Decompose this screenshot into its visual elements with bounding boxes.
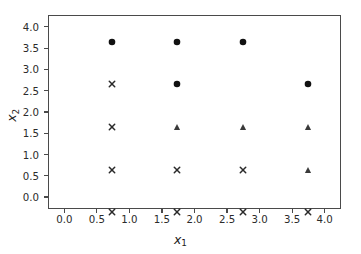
y-axis-tick [44,111,48,112]
y-axis-label-subscript: 2 [11,108,21,114]
x-axis-tick [194,209,195,213]
x-axis-tick [64,209,65,213]
x-axis-tick-label: 3.0 [252,214,268,225]
y-axis-tick [44,175,48,176]
data-point-x [304,209,311,216]
x-axis-tick [129,209,130,213]
y-axis-tick-label: 0.5 [23,170,39,181]
y-axis-tick-label: 1.5 [23,128,39,139]
x-axis-tick-label: 1.5 [154,214,170,225]
y-axis-tick-label: 3.0 [23,64,39,75]
x-axis-label-subscript: 1 [181,238,187,248]
y-axis-tick-label: 4.0 [23,21,39,32]
x-axis-tick [161,209,162,213]
y-axis-tick [44,90,48,91]
y-axis-tick [44,48,48,49]
data-point-x [109,209,116,216]
x-axis-tick-label: 1.0 [121,214,137,225]
data-point-x [239,209,246,216]
x-axis-tick [96,209,97,213]
y-axis-tick [44,154,48,155]
y-axis-tick-label: 2.5 [23,85,39,96]
x-axis-tick-label: 0.0 [56,214,72,225]
y-axis-label-var: x [5,114,20,121]
y-axis-tick-label: 1.0 [23,149,39,160]
x-axis-tick [259,209,260,213]
x-axis-tick [324,209,325,213]
scatter-plot-figure: x1 x2 0.00.51.01.52.02.53.03.54.00.00.51… [0,0,361,254]
x-axis-label: x1 [0,232,361,248]
y-axis-tick-label: 2.0 [23,107,39,118]
y-axis-tick [44,196,48,197]
y-axis-tick [44,69,48,70]
data-point-x [174,209,181,216]
y-axis-label: x2 [2,95,24,135]
y-axis-tick-label: 3.5 [23,43,39,54]
x-axis-tick-label: 2.5 [219,214,235,225]
y-axis-tick [44,26,48,27]
x-axis-tick [292,209,293,213]
x-axis-tick [226,209,227,213]
x-axis-tick-label: 4.0 [317,214,333,225]
x-axis-tick-label: 0.5 [89,214,105,225]
y-axis-tick [44,133,48,134]
y-axis-tick-label: 0.0 [23,192,39,203]
x-axis-tick-label: 3.5 [284,214,300,225]
axes-frame [48,15,341,209]
x-axis-tick-label: 2.0 [186,214,202,225]
